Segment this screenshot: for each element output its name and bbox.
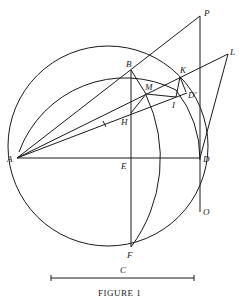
line-ld xyxy=(200,54,228,158)
label-i: I xyxy=(171,100,176,110)
label-a: A xyxy=(6,154,13,164)
geometry-figure: A B D E F H M I K D' P L O C FIGURE 1 xyxy=(0,0,239,300)
line-al xyxy=(17,54,228,158)
label-h: H xyxy=(120,117,128,127)
label-p: P xyxy=(203,8,210,18)
line-ap xyxy=(17,16,200,158)
circle-bd-arc xyxy=(19,78,200,160)
label-e: E xyxy=(120,161,127,171)
label-d-prime: D' xyxy=(187,90,197,100)
label-o: O xyxy=(203,207,210,217)
label-f: F xyxy=(126,250,133,260)
line-bm xyxy=(131,70,146,94)
label-l: L xyxy=(229,47,235,57)
figure-caption: FIGURE 1 xyxy=(98,288,141,298)
arc-m-f xyxy=(131,95,160,247)
line-ad-prime xyxy=(17,93,187,158)
line-hm xyxy=(131,94,146,113)
label-b: B xyxy=(126,59,132,69)
line-mi xyxy=(146,94,176,97)
label-c: C xyxy=(120,265,127,275)
outer-circle xyxy=(8,46,208,246)
label-d: D xyxy=(202,154,210,164)
label-k: K xyxy=(179,65,187,75)
label-m: M xyxy=(144,82,153,92)
